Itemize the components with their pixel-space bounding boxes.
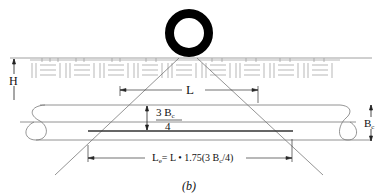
Le-rhs-1: = L • 1.75(3 B (162, 152, 219, 163)
Le-rhs-2: /4) (222, 152, 233, 163)
wheel-load-icon (170, 14, 209, 53)
Bc-label: Bc (364, 118, 374, 131)
pavement-layer (30, 58, 340, 78)
frac-num-sub: c (172, 112, 175, 120)
figure-caption: (b) (182, 180, 196, 192)
Le-formula: Le= L • 1.75(3 Bc/4) (152, 152, 233, 165)
pipe-load-diagram (0, 0, 382, 196)
frac-num-3: 3 (156, 106, 162, 118)
L-label: L (186, 83, 194, 96)
Le-main: L (152, 151, 159, 163)
fraction-denominator: 4 (165, 121, 171, 132)
Bc-sub: c (371, 123, 374, 131)
pipe (20, 105, 370, 140)
fraction-numerator: 3 Bc (156, 107, 175, 120)
frac-num-B: B (164, 106, 171, 118)
H-label: H (9, 75, 18, 87)
